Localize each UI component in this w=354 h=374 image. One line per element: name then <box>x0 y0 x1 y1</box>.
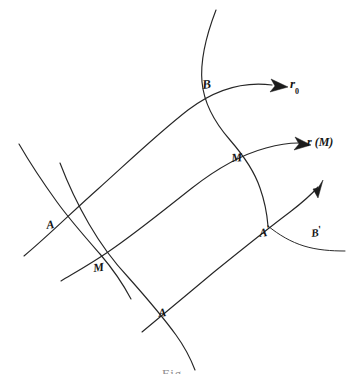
label-m-upper: M <box>231 151 243 164</box>
second-left-transversal <box>60 163 195 370</box>
label-b-top: B <box>201 77 211 91</box>
gamma-zero-arrowhead <box>270 79 288 92</box>
right-transversal-curve <box>202 10 268 226</box>
figure-caption: Fig. <box>162 366 187 374</box>
b-prime-curve <box>268 226 345 251</box>
label-r-of-m: r (M) <box>307 136 333 148</box>
gamma-zero-subscript: 0 <box>295 87 299 96</box>
label-a-left: A <box>46 218 55 231</box>
label-gamma-zero: r0 <box>290 77 299 94</box>
bottom-right-arrowhead <box>313 180 323 198</box>
label-a-prime: A' <box>259 226 271 239</box>
upper-band-curve <box>24 84 272 256</box>
label-m-lower: M <box>93 261 105 274</box>
label-b-prime: B' <box>311 227 323 239</box>
left-transversal-curve <box>19 144 131 299</box>
diagram-svg <box>0 0 354 374</box>
bottom-right-curve <box>142 187 318 332</box>
figure-canvas: B r0 M r (M) A M A' A B' Fig. <box>0 0 354 374</box>
label-a-bottom: A <box>158 306 167 319</box>
